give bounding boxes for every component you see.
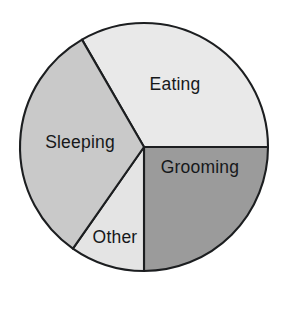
slice-label-grooming: Grooming — [161, 157, 239, 177]
slice-label-other: Other — [93, 227, 138, 247]
pie-chart-canvas: Eating Grooming Other Sleeping — [0, 0, 286, 313]
slice-label-sleeping: Sleeping — [45, 132, 115, 152]
slice-label-eating: Eating — [150, 74, 201, 94]
pie-chart-figure: Eating Grooming Other Sleeping — [0, 0, 286, 313]
